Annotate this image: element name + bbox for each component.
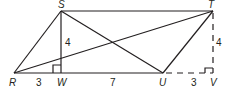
measure-rw: 3: [36, 77, 42, 88]
right-angle-mark-v: [205, 68, 213, 73]
point-label-s: S: [58, 0, 65, 10]
point-label-u: U: [159, 77, 167, 88]
diagonal-rt: [14, 11, 213, 73]
segment-rs: [14, 11, 61, 73]
diagonal-su: [61, 11, 163, 73]
measure-wu: 7: [110, 77, 116, 88]
point-label-w: W: [57, 77, 68, 88]
point-label-t: T: [208, 0, 215, 10]
measure-uv: 3: [191, 77, 197, 88]
segment-tu: [163, 11, 213, 73]
measure-tv: 4: [216, 37, 222, 48]
parallelogram-diagram: S T R W U V 4 4 3 7 3: [0, 0, 225, 89]
right-angle-mark-w: [53, 65, 61, 73]
point-label-r: R: [9, 77, 16, 88]
point-label-v: V: [210, 77, 218, 88]
measure-sw: 4: [65, 37, 71, 48]
